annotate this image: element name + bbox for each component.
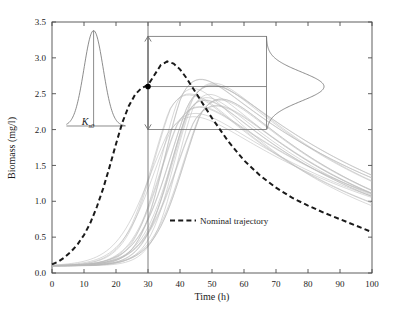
y-axis-title: Biomass (mg/l)	[6, 117, 18, 179]
ensemble-trajectory	[52, 85, 372, 265]
x-axis-tick-labels: 0102030405060708090100	[50, 279, 380, 289]
ensemble-trajectory	[52, 106, 372, 266]
k-subscript: s0	[88, 122, 95, 129]
x-tick-label: 0	[50, 279, 55, 289]
ensemble-trajectory	[52, 89, 372, 266]
x-tick-label: 10	[80, 279, 90, 289]
ensemble-trajectory	[52, 117, 372, 265]
y-axis-tick-labels: 0.00.51.01.52.02.53.03.5	[35, 17, 47, 278]
biomass-uncertainty-chart: 0102030405060708090100 0.00.51.01.52.02.…	[0, 0, 399, 324]
annotation-overlay	[145, 22, 267, 273]
y-tick-label: 1.5	[35, 161, 47, 171]
y-tick-label: 0.5	[35, 232, 47, 242]
plot-frame	[52, 22, 372, 273]
output-gaussian-curve	[267, 36, 324, 129]
x-tick-label: 90	[336, 279, 346, 289]
y-tick-label: 1.0	[35, 196, 47, 206]
y-tick-label: 0.0	[35, 268, 47, 278]
x-tick-label: 70	[272, 279, 282, 289]
ensemble-trajectory	[52, 95, 372, 266]
x-tick-label: 20	[112, 279, 122, 289]
ensemble-trajectory	[52, 113, 372, 265]
x-tick-label: 100	[365, 279, 379, 289]
x-tick-label: 60	[240, 279, 250, 289]
prior-parameter-label: Ks0	[81, 116, 95, 129]
y-tick-label: 3.0	[35, 53, 47, 63]
prior-distribution-inset	[66, 31, 125, 126]
ensemble-trajectory	[52, 86, 372, 266]
ensemble-trajectories	[52, 79, 372, 266]
ensemble-trajectory	[52, 100, 372, 266]
nominal-trajectory-line	[52, 61, 372, 264]
x-axis-title: Time (h)	[195, 291, 230, 303]
ensemble-trajectory	[52, 94, 372, 265]
ensemble-trajectory	[52, 107, 372, 265]
y-tick-label: 2.5	[35, 89, 47, 99]
y-axis-ticks	[52, 22, 372, 273]
y-tick-label: 3.5	[35, 17, 47, 27]
y-tick-label: 2.0	[35, 125, 47, 135]
legend: Nominal trajectory	[170, 216, 269, 226]
x-tick-label: 40	[176, 279, 186, 289]
x-axis-ticks	[52, 22, 372, 273]
figure-container: 0102030405060708090100 0.00.51.01.52.02.…	[0, 0, 399, 324]
ensemble-trajectory	[52, 107, 372, 266]
ensemble-trajectory	[52, 100, 372, 266]
legend-label-nominal: Nominal trajectory	[200, 216, 269, 226]
nominal-value-marker	[145, 84, 151, 90]
x-tick-label: 80	[304, 279, 314, 289]
output-distribution-inset	[267, 36, 324, 129]
prior-gaussian-curve	[66, 31, 125, 126]
x-tick-label: 50	[208, 279, 218, 289]
x-tick-label: 30	[144, 279, 154, 289]
